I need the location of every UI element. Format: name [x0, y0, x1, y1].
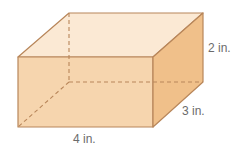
- height-label: 2 in.: [208, 41, 231, 55]
- length-label: 4 in.: [73, 132, 96, 146]
- width-label: 3 in.: [182, 104, 205, 118]
- front-face: [18, 57, 153, 127]
- rectangular-prism: 2 in. 3 in. 4 in.: [0, 0, 241, 149]
- diagram-canvas: 2 in. 3 in. 4 in.: [0, 0, 241, 149]
